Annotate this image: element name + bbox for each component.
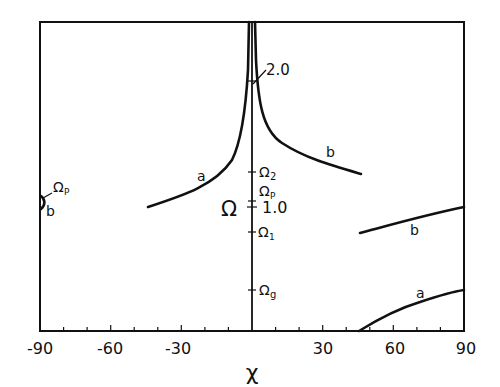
y-axis-title: Ω (221, 197, 237, 221)
x-axis-title: χ (246, 360, 259, 385)
omega-symbol: Ω (258, 224, 269, 240)
curve-label-b-upper: b (326, 144, 335, 160)
arrow-omega-p-left (43, 193, 52, 198)
x-tick-labels: -90 -60 -30 30 60 90 (27, 339, 476, 358)
curve-b-upper (255, 22, 361, 174)
label-left-b: b (46, 203, 55, 219)
label-omega-2: Ω 2 (259, 164, 276, 182)
arrow-2-0 (253, 70, 266, 84)
omega-symbol: Ω (259, 183, 270, 199)
leader-lines (43, 70, 266, 198)
curve-label-a-lower: a (416, 285, 425, 301)
subscript: g (270, 289, 276, 300)
curve-label-a-left: a (197, 168, 206, 184)
x-tick-label: 30 (313, 339, 333, 358)
subscript: 2 (270, 171, 276, 182)
omega-symbol: Ω (259, 164, 270, 180)
x-tick-label: 60 (385, 339, 405, 358)
chart: -90 -60 -30 30 60 90 χ Ω 2.0 Ω 2 Ω P 1.0… (0, 0, 500, 387)
omega-symbol: Ω (53, 179, 64, 195)
curve-label-b-lower: b (410, 222, 419, 238)
label-2-0: 2.0 (266, 61, 290, 79)
x-tick-label: -60 (97, 339, 123, 358)
label-left-omega-p: Ω P (53, 179, 70, 197)
curve-a-lower (359, 290, 464, 331)
subscript: P (64, 187, 70, 197)
label-omega-1: Ω 1 (258, 224, 275, 242)
omega-symbol: Ω (259, 282, 270, 298)
x-tick-label: -90 (27, 339, 53, 358)
x-tick-label: 90 (456, 339, 476, 358)
x-tick-label: -30 (165, 339, 191, 358)
label-omega-g: Ω g (259, 282, 276, 300)
subscript: 1 (269, 232, 275, 242)
label-1-0: 1.0 (262, 198, 287, 217)
